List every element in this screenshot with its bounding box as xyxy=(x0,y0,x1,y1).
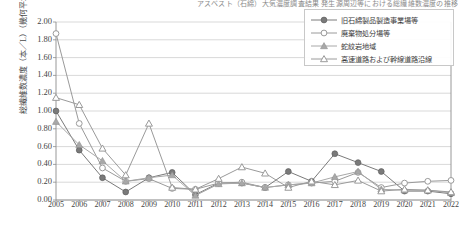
legend: 旧石綿製品製造事業場等廃棄物処分場等蛇紋岩地域高速道路および幹線道路沿線 xyxy=(304,9,454,66)
legend-label: 蛇紋岩地域 xyxy=(339,41,376,51)
legend-label: 廃棄物処分場等 xyxy=(339,28,390,38)
legend-label: 旧石綿製品製造事業場等 xyxy=(339,15,418,25)
series-filled-circle xyxy=(53,108,454,197)
legend-item[interactable]: 蛇紋岩地域 xyxy=(309,39,376,52)
legend-marker-icon xyxy=(309,27,339,39)
series-filled-triangle xyxy=(53,118,455,198)
legend-marker-icon xyxy=(309,14,339,26)
series-open-triangle xyxy=(53,94,455,194)
legend-label: 高速道路および幹線道路沿線 xyxy=(339,54,432,64)
legend-marker-icon xyxy=(309,40,339,52)
legend-item[interactable]: 高速道路および幹線道路沿線 xyxy=(309,52,432,65)
legend-item[interactable]: 旧石綿製品製造事業場等 xyxy=(309,13,418,26)
legend-item[interactable]: 廃棄物処分場等 xyxy=(309,26,390,39)
legend-marker-icon xyxy=(309,53,339,65)
